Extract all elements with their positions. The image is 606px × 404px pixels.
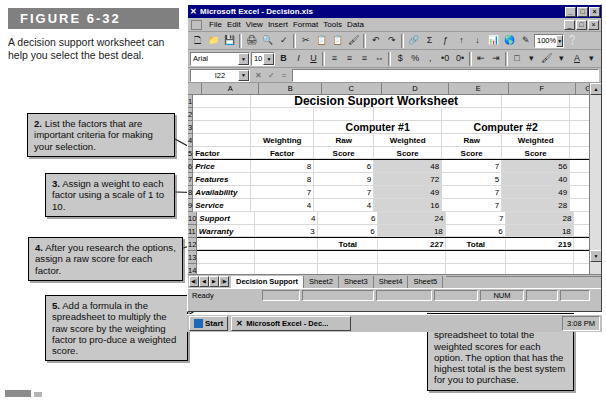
weight-value[interactable]: 3	[255, 225, 318, 237]
cell-e2[interactable]	[442, 108, 502, 121]
total-label-1[interactable]: Total	[318, 238, 378, 250]
italic-button[interactable]: I	[291, 51, 305, 66]
header-weighted2-2[interactable]: Score	[502, 147, 570, 159]
row-header-11[interactable]: 11	[188, 225, 197, 238]
header-raw1-1[interactable]: Raw	[314, 134, 374, 147]
chevron-down-icon[interactable]: ▾	[555, 51, 569, 66]
chevron-down-icon[interactable]: ▼	[556, 35, 563, 47]
weighted-score-1[interactable]: 24	[378, 212, 446, 225]
column-header-c[interactable]: C	[322, 83, 382, 94]
raw-score-2[interactable]: 7	[442, 186, 502, 199]
cell-title[interactable]: Decision Support Worksheet	[251, 95, 502, 108]
cell-f1[interactable]	[502, 95, 570, 108]
print-preview-icon[interactable]: 🔍	[260, 33, 275, 48]
bold-button[interactable]: B	[276, 51, 290, 66]
last-sheet-icon[interactable]: |▶	[219, 276, 229, 287]
vertical-scrollbar[interactable]: ▲ ▼	[589, 83, 601, 274]
scroll-down-icon[interactable]: ▼	[590, 250, 601, 262]
cell-d13[interactable]	[378, 251, 446, 264]
horizontal-scrollbar[interactable]	[446, 276, 601, 287]
function-icon[interactable]: ƒ	[438, 33, 453, 48]
name-box[interactable]: I22 ▼	[190, 69, 250, 82]
cell-a14[interactable]	[197, 264, 255, 274]
cell-a12[interactable]	[197, 238, 255, 250]
cell-c2[interactable]	[314, 108, 374, 121]
row-header-10[interactable]: 10	[188, 212, 197, 225]
increase-indent-icon[interactable]: ⇥	[489, 51, 503, 66]
cell-d14[interactable]	[378, 264, 446, 274]
cell-b13[interactable]	[255, 251, 318, 264]
raw-score-2[interactable]: 7	[446, 212, 506, 225]
menu-tools[interactable]: Tools	[323, 20, 342, 29]
header-weighting-1[interactable]: Weighting	[251, 134, 314, 147]
cell-b12[interactable]	[255, 238, 318, 250]
prev-sheet-icon[interactable]: ◀	[199, 276, 209, 287]
cell-a1[interactable]	[193, 95, 251, 108]
enter-icon[interactable]: ✓	[265, 71, 277, 80]
cell-f2[interactable]	[502, 108, 570, 121]
excel-title-bar[interactable]: ✕ Microsoft Excel - Decision.xls _ □ ×	[188, 5, 601, 18]
font-name-combo[interactable]: Arial ▼	[190, 52, 250, 66]
weighted-score-2[interactable]: 18	[506, 225, 574, 237]
cell-b3[interactable]	[251, 121, 314, 134]
maximize-button[interactable]: □	[577, 7, 588, 17]
cell-b2[interactable]	[251, 108, 314, 121]
weight-value[interactable]: 8	[251, 173, 314, 186]
decrease-indent-icon[interactable]: ⇤	[474, 51, 488, 66]
cell-c13[interactable]	[318, 251, 378, 264]
factor-name[interactable]: Service	[193, 199, 251, 212]
header-raw2-2[interactable]: Score	[442, 147, 502, 159]
header-weighted2-1[interactable]: Weighted	[502, 134, 570, 147]
raw-score-2[interactable]: 5	[442, 173, 502, 186]
sheet-tab-decision-support[interactable]: Decision Support	[231, 276, 304, 288]
row-header-13[interactable]: 13	[188, 251, 197, 264]
system-tray-clock[interactable]: 3:08 PM	[562, 316, 600, 331]
cell-a4[interactable]	[193, 134, 251, 147]
font-color-icon[interactable]: A	[570, 51, 584, 66]
factor-name[interactable]: Availability	[193, 186, 251, 199]
comma-icon[interactable]: ,	[423, 51, 437, 66]
map-icon[interactable]: 🌎	[502, 33, 517, 48]
total-value-1[interactable]: 227	[378, 238, 446, 250]
drawing-icon[interactable]: ✎	[518, 33, 533, 48]
help-icon[interactable]: ❔	[565, 33, 580, 48]
weighted-score-2[interactable]: 28	[506, 212, 574, 225]
redo-icon[interactable]: ↷	[384, 33, 399, 48]
menu-insert[interactable]: Insert	[268, 20, 288, 29]
raw-score-2[interactable]: 7	[442, 199, 502, 212]
menu-view[interactable]: View	[246, 20, 263, 29]
weighted-score-2[interactable]: 40	[502, 173, 570, 186]
chevron-down-icon[interactable]: ▼	[238, 70, 249, 81]
open-icon[interactable]: 📁	[206, 33, 221, 48]
factor-name[interactable]: Price	[193, 160, 251, 173]
fill-color-icon[interactable]: 🖌	[540, 51, 554, 66]
raw-score-1[interactable]: 9	[314, 173, 374, 186]
cell-a2[interactable]	[193, 108, 251, 121]
cell-f13[interactable]	[506, 251, 574, 264]
raw-score-2[interactable]: 7	[442, 160, 502, 173]
spelling-icon[interactable]: ✓	[276, 33, 291, 48]
header-weighting-2[interactable]: Factor	[251, 147, 314, 159]
cell-c14[interactable]	[318, 264, 378, 274]
font-size-combo[interactable]: 10 ▼	[251, 52, 276, 66]
chevron-down-icon[interactable]: ▼	[238, 53, 249, 65]
zoom-combo[interactable]: 100% ▼	[534, 34, 564, 48]
chart-wizard-icon[interactable]: 📊	[486, 33, 501, 48]
format-painter-icon[interactable]: 🖌	[346, 33, 361, 48]
header-weighted1-2[interactable]: Score	[374, 147, 442, 159]
factor-name[interactable]: Support	[197, 212, 255, 225]
currency-icon[interactable]: $	[393, 51, 407, 66]
menu-file[interactable]: File	[209, 20, 222, 29]
print-icon[interactable]: 🖨	[244, 33, 259, 48]
weighted-score-1[interactable]: 48	[374, 160, 442, 173]
align-left-icon[interactable]: ≡	[327, 51, 341, 66]
cell-e14[interactable]	[446, 264, 506, 274]
align-center-icon[interactable]: ≡	[342, 51, 356, 66]
chevron-down-icon[interactable]: ▾	[585, 51, 599, 66]
cell-b14[interactable]	[255, 264, 318, 274]
header-raw1-2[interactable]: Score	[314, 147, 374, 159]
column-header-a[interactable]: A	[202, 83, 260, 94]
cell-e13[interactable]	[446, 251, 506, 264]
menu-edit[interactable]: Edit	[227, 20, 241, 29]
raw-score-1[interactable]: 7	[314, 186, 374, 199]
